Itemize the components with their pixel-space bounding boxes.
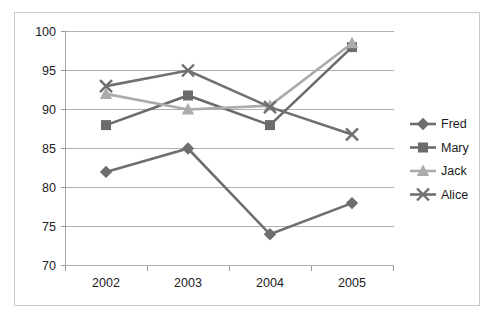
legend-label-fred: Fred bbox=[441, 117, 467, 131]
legend-label-jack: Jack bbox=[441, 164, 467, 178]
data-series-layer bbox=[100, 37, 358, 241]
series-mary bbox=[101, 42, 357, 130]
x-axis-label-2004: 2004 bbox=[256, 276, 284, 290]
y-axis-label-85: 85 bbox=[42, 142, 56, 156]
datapoint-fred-2002 bbox=[100, 166, 112, 178]
y-axis-label-80: 80 bbox=[42, 181, 56, 195]
series-line-alice bbox=[106, 71, 352, 135]
legend-marker-square-icon bbox=[418, 143, 428, 153]
line-chart-plot: 100 95 90 85 80 75 70 2002 2003 2004 200… bbox=[15, 13, 481, 307]
legend-marker-diamond-icon bbox=[417, 118, 429, 130]
datapoint-mary-2004 bbox=[265, 120, 275, 130]
y-axis-label-95: 95 bbox=[42, 64, 56, 78]
y-axis-label-70: 70 bbox=[42, 259, 56, 273]
series-line-fred bbox=[106, 149, 352, 235]
legend-item-fred[interactable]: Fred bbox=[410, 117, 467, 131]
legend-label-mary: Mary bbox=[441, 141, 470, 155]
chart-figure: 100 95 90 85 80 75 70 2002 2003 2004 200… bbox=[14, 12, 480, 306]
x-axis-label-2005: 2005 bbox=[338, 276, 366, 290]
legend-item-alice[interactable]: Alice bbox=[410, 188, 468, 202]
series-line-mary bbox=[106, 47, 352, 125]
datapoint-mary-2002 bbox=[101, 120, 111, 130]
y-axis-gridlines bbox=[66, 32, 394, 266]
datapoint-alice-2005 bbox=[346, 128, 358, 140]
series-line-jack bbox=[106, 43, 352, 109]
y-axis-label-100: 100 bbox=[35, 25, 56, 39]
series-jack bbox=[100, 37, 358, 115]
datapoint-fred-2005 bbox=[346, 197, 358, 209]
legend-label-alice: Alice bbox=[441, 188, 468, 202]
x-axis-label-2002: 2002 bbox=[92, 276, 120, 290]
series-fred bbox=[100, 142, 358, 240]
y-axis-label-90: 90 bbox=[42, 103, 56, 117]
x-axis-label-2003: 2003 bbox=[174, 276, 202, 290]
y-axis: 100 95 90 85 80 75 70 bbox=[35, 25, 65, 273]
x-axis: 2002 2003 2004 2005 bbox=[66, 266, 394, 291]
legend-item-mary[interactable]: Mary bbox=[410, 141, 470, 155]
y-axis-label-75: 75 bbox=[42, 220, 56, 234]
datapoint-mary-2003 bbox=[183, 90, 193, 100]
chart-legend: FredMaryJackAlice bbox=[410, 117, 470, 202]
series-alice bbox=[100, 65, 358, 141]
legend-item-jack[interactable]: Jack bbox=[410, 164, 467, 178]
